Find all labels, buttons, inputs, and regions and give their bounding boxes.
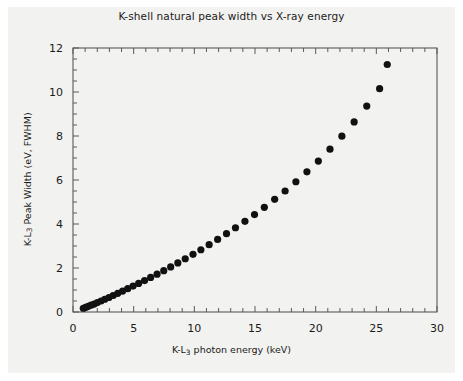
x-tick-label: 30 bbox=[430, 322, 444, 335]
data-point bbox=[167, 263, 174, 270]
y-axis-title-prefix: K-L bbox=[22, 232, 33, 246]
data-point bbox=[241, 218, 248, 225]
data-point bbox=[160, 267, 167, 274]
y-tick-label: 12 bbox=[49, 42, 63, 55]
data-point bbox=[315, 157, 322, 164]
data-point bbox=[281, 187, 288, 194]
data-point bbox=[197, 246, 204, 253]
data-point bbox=[326, 146, 333, 153]
data-point bbox=[384, 61, 391, 68]
data-point bbox=[292, 178, 299, 185]
data-point bbox=[303, 168, 310, 175]
data-point bbox=[182, 255, 189, 262]
data-point bbox=[363, 102, 370, 109]
y-axis-title: K-L3 Peak Width (eV, FWHM) bbox=[22, 79, 35, 279]
data-point bbox=[338, 133, 345, 140]
data-point-group bbox=[80, 61, 391, 312]
y-tick-label: 2 bbox=[56, 262, 63, 275]
x-tick-label: 20 bbox=[309, 322, 323, 335]
data-point bbox=[189, 251, 196, 258]
y-axis-title-suffix: Peak Width (eV, FWHM) bbox=[22, 112, 33, 227]
y-tick-label: 6 bbox=[56, 174, 63, 187]
y-tick-label: 8 bbox=[56, 130, 63, 143]
y-tick-label: 10 bbox=[49, 86, 63, 99]
data-point bbox=[223, 230, 230, 237]
x-axis-title: K-L3 photon energy (keV) bbox=[0, 344, 463, 357]
data-point bbox=[376, 85, 383, 92]
data-point bbox=[206, 241, 213, 248]
x-tick-label: 25 bbox=[369, 322, 383, 335]
data-point bbox=[147, 274, 154, 281]
x-tick-label: 0 bbox=[70, 322, 77, 335]
chart-figure: K-shell natural peak width vs X-ray ener… bbox=[0, 0, 463, 381]
x-axis-title-suffix: photon energy (keV) bbox=[191, 344, 292, 355]
x-tick-label: 5 bbox=[130, 322, 137, 335]
data-point bbox=[261, 204, 268, 211]
y-tick-label: 0 bbox=[56, 306, 63, 319]
data-point bbox=[251, 211, 258, 218]
x-axis-title-prefix: K-L bbox=[172, 344, 186, 355]
data-point bbox=[174, 259, 181, 266]
data-point bbox=[214, 236, 221, 243]
x-tick-label: 10 bbox=[187, 322, 201, 335]
y-axis-title-subscript: 3 bbox=[25, 228, 34, 233]
y-tick-label: 4 bbox=[56, 218, 63, 231]
data-point bbox=[232, 224, 239, 231]
data-point bbox=[153, 271, 160, 278]
x-tick-label: 15 bbox=[248, 322, 262, 335]
data-point bbox=[271, 196, 278, 203]
data-point bbox=[351, 118, 358, 125]
scatter-plot: 051015202530024681012 bbox=[0, 0, 463, 381]
